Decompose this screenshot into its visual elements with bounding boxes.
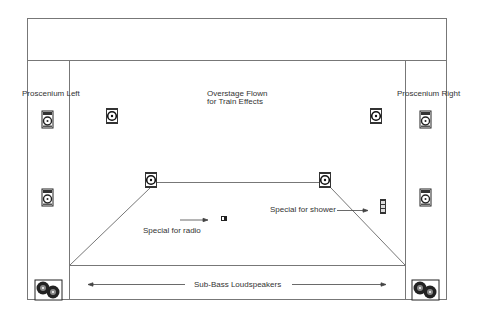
special-radio-label: Special for radio xyxy=(143,226,201,235)
stage-plan xyxy=(0,0,483,312)
trapezoid-right xyxy=(331,188,405,265)
sub-bass-speaker-icon xyxy=(412,280,439,300)
speaker-icon xyxy=(42,111,53,128)
speaker-icon xyxy=(106,108,118,124)
proscenium-right-label: Proscenium Right xyxy=(397,89,460,98)
overstage-label-line2: for Train Effects xyxy=(207,97,263,106)
sub-bass-label: Sub-Bass Loudspeakers xyxy=(194,280,281,289)
speaker-icon xyxy=(145,172,157,188)
special-shower-label: Special for shower xyxy=(270,205,336,214)
trapezoid-left xyxy=(70,188,150,265)
speaker-icon xyxy=(319,172,331,188)
radio-speaker-icon xyxy=(221,216,227,221)
speaker-icon xyxy=(420,111,431,128)
proscenium-left-label: Proscenium Left xyxy=(22,89,80,98)
speaker-icon xyxy=(370,108,382,124)
speaker-icon xyxy=(420,189,431,206)
sub-bass-speaker-icon xyxy=(35,280,62,300)
shower-speaker-icon xyxy=(380,199,386,214)
speaker-icon xyxy=(42,189,53,206)
